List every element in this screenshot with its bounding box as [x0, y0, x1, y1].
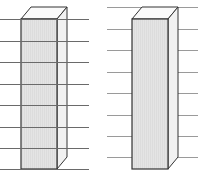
right-prism-front-face: [132, 19, 168, 169]
right-prism-side-face: [168, 7, 178, 169]
prisms-diagram: [0, 0, 200, 185]
left-prism-group: [0, 7, 89, 170]
left-prism-side-face: [57, 7, 67, 169]
right-prism-group: [107, 7, 198, 169]
diagram-canvas: [0, 0, 200, 185]
